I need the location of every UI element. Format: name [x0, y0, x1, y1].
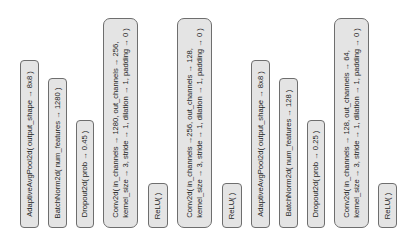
- layer-label: ReLU( ): [227, 192, 237, 219]
- layer-label-line: ReLU( ): [227, 192, 237, 219]
- layer-label-line: Dropout2d( prob → 0.45 ): [80, 131, 90, 218]
- conv2d-block-1: Conv2d( in_channels → 1280, out_channels…: [103, 18, 138, 228]
- dropout-block-2: Dropout2d( prob → 0.25 ): [307, 120, 325, 228]
- layer-label: AdaptiveAvgPool2d( output_shape → 8x8 ): [256, 71, 266, 217]
- layer-label-line: AdaptiveAvgPool2d( output_shape → 8x8 ): [256, 71, 266, 217]
- layer-label: Conv2d( in_channels → 128, out_channels …: [342, 28, 361, 218]
- layer-label: Conv2d( in_channels → 1280, out_channels…: [111, 28, 130, 218]
- conv2d-block-3: Conv2d( in_channels → 128, out_channels …: [334, 18, 369, 228]
- layer-label-line: AdaptiveAvgPool2d( output_shape → 8x8 ): [25, 71, 35, 217]
- layer-label-line: Dropout2d( prob → 0.25 ): [311, 131, 321, 218]
- layer-label: ReLU( ): [153, 192, 163, 219]
- layer-label-line: kernel_size → 3, stride → 1, dilation → …: [352, 28, 362, 218]
- layer-label: AdaptiveAvgPool2d( output_shape → 8x8 ): [25, 71, 35, 217]
- layer-label-line: Conv2d( in_channels → 1280, out_channels…: [111, 28, 121, 218]
- layer-label-line: ReLU( ): [153, 192, 163, 219]
- dropout-block-1: Dropout2d( prob → 0.45 ): [76, 120, 94, 228]
- batchnorm-block-1: BatchNorm2d( num_features → 1280 ): [48, 78, 67, 228]
- layer-label: ReLU( ): [383, 192, 393, 219]
- relu-block-2: ReLU( ): [222, 183, 242, 228]
- layer-label: Conv2d( in_channels →256, out_channels →…: [185, 28, 204, 218]
- adaptive-avg-pool-block-1: AdaptiveAvgPool2d( output_shape → 8x8 ): [20, 60, 39, 228]
- adaptive-avg-pool-block-2: AdaptiveAvgPool2d( output_shape → 8x8 ): [251, 60, 270, 228]
- batchnorm-block-2: BatchNorm2d( num_features → 128 ): [279, 78, 298, 228]
- layer-label-line: Conv2d( in_channels →256, out_channels →…: [185, 28, 195, 218]
- layer-label-line: kernel_size → 3, stride → 1, dilation → …: [195, 28, 205, 218]
- layer-label-line: ReLU( ): [383, 192, 393, 219]
- layer-label: Dropout2d( prob → 0.45 ): [80, 131, 90, 218]
- conv2d-block-2: Conv2d( in_channels →256, out_channels →…: [177, 18, 212, 228]
- layer-label-line: BatchNorm2d( num_features → 128 ): [284, 90, 294, 217]
- layer-label-line: kernel_size → 3, stride → 1, dilation → …: [121, 28, 131, 218]
- layer-label-line: BatchNorm2d( num_features → 1280 ): [53, 88, 63, 219]
- relu-block-3: ReLU( ): [378, 183, 397, 228]
- layer-label-line: Conv2d( in_channels → 128, out_channels …: [342, 28, 352, 218]
- layer-label: Dropout2d( prob → 0.25 ): [311, 131, 321, 218]
- layer-label: BatchNorm2d( num_features → 128 ): [284, 90, 294, 217]
- relu-block-1: ReLU( ): [148, 183, 168, 228]
- layer-label: BatchNorm2d( num_features → 1280 ): [53, 88, 63, 219]
